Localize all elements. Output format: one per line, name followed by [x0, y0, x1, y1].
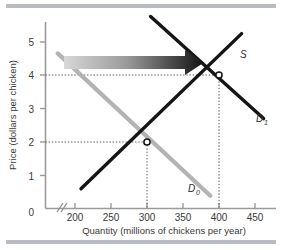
x-axis-break-icon [57, 203, 67, 212]
curve-label-demand-new: D 1 [256, 113, 268, 126]
equilibrium-point-original [144, 139, 150, 145]
x-tick-label-450: 450 [247, 212, 264, 223]
x-tick-label-300: 300 [139, 212, 156, 223]
y-axis-title: Price (dollars per chicken) [7, 60, 18, 170]
demand-shift-arrow [64, 50, 204, 75]
demand-shift-arrow-body [64, 50, 204, 75]
y-axis-tick-labels: 5 4 3 2 1 [28, 37, 34, 182]
supply-demand-figure: 5 4 3 2 1 0 200 250 300 350 400 450 Quan… [0, 0, 282, 250]
y-tick-label-2: 2 [28, 137, 34, 148]
curve-label-supply-text: S [240, 49, 247, 60]
y-tick-label-1: 1 [28, 171, 34, 182]
y-axis-ticks [40, 42, 46, 176]
x-tick-label-200: 200 [67, 212, 84, 223]
y-tick-label-5: 5 [28, 37, 34, 48]
x-tick-label-250: 250 [103, 212, 120, 223]
equilibrium-point-new [216, 72, 222, 78]
y-tick-label-3: 3 [28, 104, 34, 115]
origin-label: 0 [28, 207, 34, 218]
x-tick-label-350: 350 [175, 212, 192, 223]
chart-canvas: 5 4 3 2 1 0 200 250 300 350 400 450 Quan… [0, 0, 282, 250]
y-tick-label-4: 4 [28, 70, 34, 81]
curve-label-supply: S [240, 49, 247, 60]
x-axis-tick-labels: 200 250 300 350 400 450 [67, 212, 264, 223]
x-axis-ticks [75, 203, 255, 209]
curve-label-demand-new-sub: 1 [264, 119, 268, 126]
curve-label-demand-new-base: D [256, 113, 263, 124]
curve-label-demand-original-base: D [188, 183, 195, 194]
curve-label-demand-original-sub: 0 [196, 189, 200, 196]
x-tick-label-400: 400 [211, 212, 228, 223]
x-axis-title: Quantity (millions of chickens per year) [82, 225, 246, 236]
